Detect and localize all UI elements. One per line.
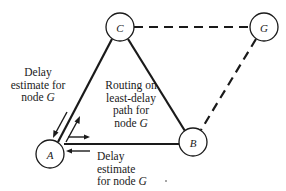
annotation-node-ref: G — [139, 175, 147, 187]
node-c-label: C — [116, 22, 124, 34]
annotation-text: node — [114, 117, 139, 129]
annotation-line: estimate — [97, 163, 147, 176]
annotation-line: node G — [96, 117, 166, 130]
arrow-delay-estimate-c-to-a — [53, 112, 67, 138]
annotation-line: least-delay — [96, 92, 166, 105]
print-speck — [165, 180, 167, 182]
annotation-line: node G — [8, 91, 68, 104]
annotation-line: for node G — [97, 175, 147, 188]
delay-estimate-label-bottom: Delay estimate for node G — [97, 150, 147, 188]
annotation-line: Delay — [8, 66, 68, 79]
arrow-delay-estimate-b-to-a — [66, 149, 90, 154]
node-c: C — [106, 13, 134, 41]
annotation-text: for node — [97, 175, 139, 187]
annotation-node-ref: G — [139, 117, 147, 129]
node-b: B — [179, 128, 207, 156]
arrow-routing-a-to-c — [66, 116, 80, 142]
annotation-node-ref: G — [46, 91, 54, 103]
annotation-line: Routing on — [96, 79, 166, 92]
delay-estimate-label-left: Delay estimate for node G — [8, 66, 68, 104]
node-a-label: A — [46, 149, 54, 161]
annotation-text: node — [21, 91, 46, 103]
annotation-line: path for — [96, 104, 166, 117]
node-b-label: B — [190, 137, 197, 149]
annotation-line: Delay — [97, 150, 147, 163]
edge-g-b — [201, 39, 256, 130]
node-g: G — [250, 13, 278, 41]
node-a: A — [36, 140, 64, 168]
annotation-line: estimate for — [8, 79, 68, 92]
node-g-label: G — [260, 22, 268, 34]
arrow-routing-a-to-b — [68, 135, 90, 140]
routing-label: Routing on least-delay path for node G — [96, 79, 166, 129]
